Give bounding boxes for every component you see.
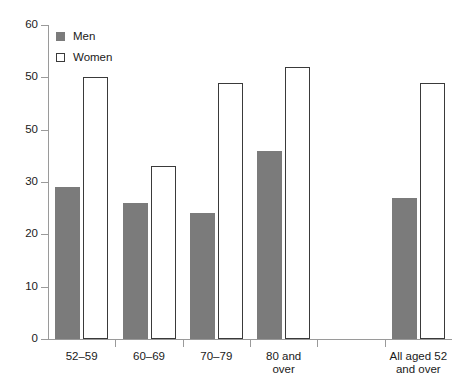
bar-women xyxy=(151,166,176,339)
bar-men xyxy=(190,213,215,339)
y-tick-label: 0 xyxy=(0,333,38,345)
x-tick xyxy=(250,340,251,347)
y-tick-label: 30 xyxy=(0,176,38,188)
legend-swatch-men-icon xyxy=(56,32,65,41)
y-tick-label: 60 xyxy=(0,19,38,31)
legend-item-women: Women xyxy=(56,47,112,68)
x-tick xyxy=(385,340,386,347)
bar-women xyxy=(285,67,310,339)
x-tick xyxy=(317,340,318,347)
bar-men xyxy=(55,187,80,339)
legend-label-women: Women xyxy=(73,52,112,64)
legend-label-men: Men xyxy=(73,31,95,43)
bar-men xyxy=(123,203,148,339)
y-tick-label: 10 xyxy=(0,281,38,293)
y-tick xyxy=(41,339,49,340)
y-tick-label: 20 xyxy=(0,228,38,240)
y-tick-label: 50 xyxy=(0,71,38,83)
bar-women xyxy=(218,83,243,339)
y-tick-label: 50 xyxy=(0,124,38,136)
bar-women xyxy=(420,83,445,339)
bar-women xyxy=(83,77,108,339)
plot-area xyxy=(48,25,452,339)
x-tick xyxy=(183,340,184,347)
legend: Men Women xyxy=(56,26,112,68)
bar-men xyxy=(257,151,282,339)
legend-item-men: Men xyxy=(56,26,112,47)
bar-chart: 6050503020100 52–5960–6970–7980 and over… xyxy=(0,0,462,385)
x-tick xyxy=(115,340,116,347)
legend-swatch-women-icon xyxy=(56,53,65,62)
x-axis-label: All aged 52 and over xyxy=(373,350,462,376)
bar-men xyxy=(392,198,417,339)
x-axis-label: 80 and over xyxy=(239,350,329,376)
